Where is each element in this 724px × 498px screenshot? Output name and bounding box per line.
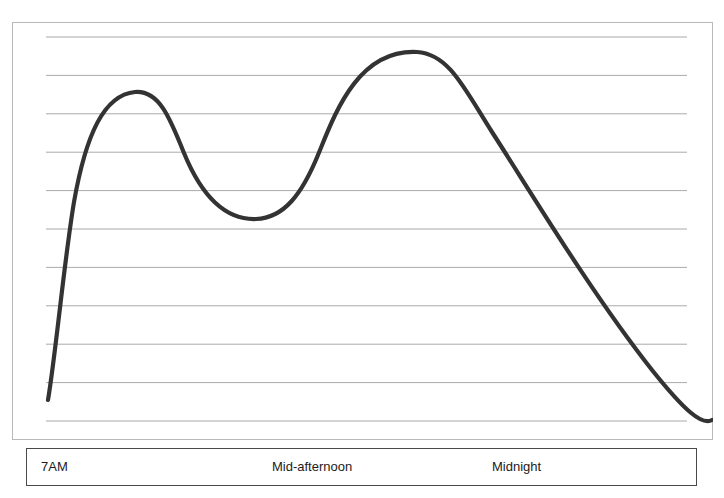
x-axis-label-middle: Mid-afternoon bbox=[272, 459, 352, 475]
x-axis-label-start: 7AM bbox=[41, 459, 68, 475]
performance-line-chart bbox=[12, 22, 713, 440]
chart-screenshot: Performance 7AM Mid-afternoon Midnight bbox=[0, 0, 724, 498]
x-axis-label-end: Midnight bbox=[492, 459, 541, 475]
x-axis-label-box: 7AM Mid-afternoon Midnight bbox=[26, 448, 697, 486]
performance-curve bbox=[48, 52, 712, 421]
gridlines bbox=[46, 37, 687, 421]
